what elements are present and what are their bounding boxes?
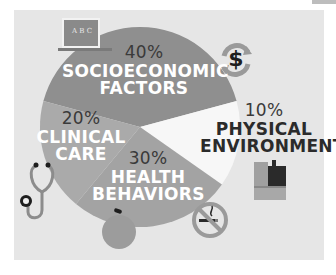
stethoscope-icon — [14, 160, 74, 225]
pct-clinical-care: 20% — [36, 110, 126, 127]
apple-icon — [100, 207, 140, 251]
no-smoking-icon — [190, 200, 230, 240]
factory-environment-icon — [254, 158, 288, 200]
pct-physical-environment: 10% — [200, 102, 328, 119]
label-socioeconomic: 40% SOCIOECONOMIC FACTORS — [62, 44, 226, 97]
pct-socioeconomic: 40% — [62, 44, 226, 61]
label-physical-environment: 10% PHYSICAL ENVIRONMENT — [200, 102, 328, 155]
label-clinical-care: 20% CLINICAL CARE — [36, 110, 126, 163]
